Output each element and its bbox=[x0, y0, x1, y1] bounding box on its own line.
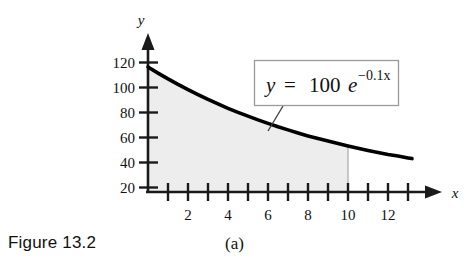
x-axis-label: x bbox=[451, 185, 459, 201]
y-tick-label-40: 40 bbox=[120, 155, 135, 171]
equation-coefficient: 100 bbox=[309, 73, 341, 97]
equation-exponent: −0.1x bbox=[358, 68, 390, 83]
y-tick-label-80: 80 bbox=[120, 105, 135, 121]
x-axis-arrowhead bbox=[425, 186, 442, 199]
y-tick-label-20: 20 bbox=[120, 180, 135, 196]
subfigure-caption: (a) bbox=[0, 234, 469, 254]
y-axis-tick-labels: 120 100 80 60 40 20 bbox=[113, 55, 136, 196]
y-tick-label-60: 60 bbox=[120, 130, 135, 146]
y-axis-label: y bbox=[136, 12, 145, 28]
x-axis-tick-labels: 2 4 6 8 10 12 bbox=[184, 207, 395, 223]
equation-equals-sign: = bbox=[284, 73, 296, 97]
y-tick-label-120: 120 bbox=[113, 55, 136, 71]
equation-variable-y: y bbox=[264, 73, 276, 97]
x-tick-label-8: 8 bbox=[304, 207, 312, 223]
x-tick-label-6: 6 bbox=[264, 207, 272, 223]
equation-base-e: e bbox=[348, 73, 357, 97]
figure-container: 120 100 80 60 40 20 2 4 6 bbox=[0, 0, 469, 271]
chart-canvas: 120 100 80 60 40 20 2 4 6 bbox=[0, 0, 469, 271]
x-tick-label-10: 10 bbox=[341, 207, 356, 223]
y-tick-label-100: 100 bbox=[113, 80, 136, 96]
x-tick-label-12: 12 bbox=[381, 207, 396, 223]
x-tick-label-4: 4 bbox=[224, 207, 232, 223]
x-tick-label-2: 2 bbox=[184, 207, 192, 223]
y-axis-arrowhead bbox=[142, 33, 155, 50]
